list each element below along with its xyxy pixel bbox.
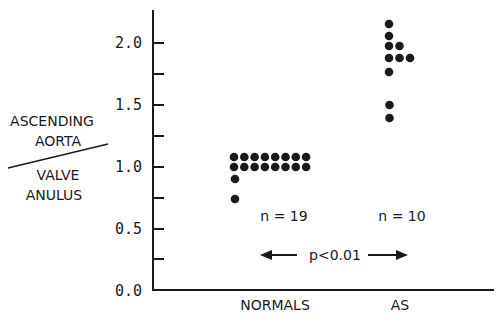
ylabel-denominator-line1: VALVE — [37, 167, 80, 183]
y-tick-label: 1.5 — [115, 96, 142, 114]
ylabel-numerator-line2: AORTA — [35, 133, 82, 149]
ylabel-numerator-line1: ASCENDING — [10, 113, 94, 129]
ylabel-denominator-line2: ANULUS — [26, 187, 83, 203]
series-as — [385, 20, 415, 123]
y-tick-label: 0.0 — [115, 282, 142, 300]
left-arrowhead-icon — [260, 250, 272, 260]
y-axis-label: ASCENDING AORTA VALVE ANULUS — [8, 113, 108, 203]
n-label-normals: n = 19 — [260, 208, 307, 224]
right-arrowhead-icon — [396, 250, 408, 260]
n-label-as: n = 10 — [378, 208, 425, 224]
scatter-chart: 2.0 1.5 1.0 0.5 0.0 ASCENDING AORTA VALV… — [0, 0, 503, 322]
category-label-as: AS — [391, 297, 410, 313]
y-tick-label: 2.0 — [115, 34, 142, 52]
y-tick-label: 1.0 — [115, 158, 142, 176]
category-label-normals: NORMALS — [240, 297, 310, 313]
series-normals — [230, 153, 311, 204]
y-ticks — [153, 43, 164, 259]
pvalue-annotation: p<0.01 — [260, 247, 408, 263]
y-tick-label: 0.5 — [115, 220, 142, 238]
pvalue-label: p<0.01 — [309, 247, 361, 263]
